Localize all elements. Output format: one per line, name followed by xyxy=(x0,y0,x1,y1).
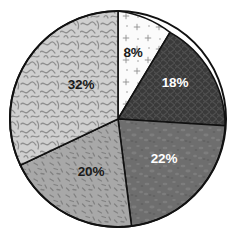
pie-chart-svg: 8% 18% 22% 20% 32% xyxy=(0,0,236,240)
pie-label-32-percent: 32% xyxy=(68,77,95,92)
pie-label-20-percent: 20% xyxy=(78,164,105,179)
pie-label-22-percent: 22% xyxy=(151,151,178,166)
pie-chart-figure: 8% 18% 22% 20% 32% xyxy=(0,0,236,240)
pie-label-18-percent: 18% xyxy=(162,75,189,90)
pie-label-8-percent: 8% xyxy=(123,45,142,60)
pie-slice-22-percent[interactable] xyxy=(118,119,225,226)
